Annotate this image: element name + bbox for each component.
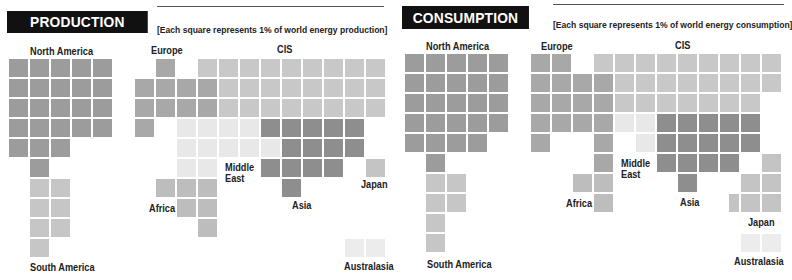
waffle-square-japan [762,194,781,212]
waffle-square-europe [573,94,592,112]
waffle-square-asia [699,134,718,152]
consumption-label-cis: CIS [675,40,690,52]
waffle-square-cis [678,74,697,92]
waffle-square-cis [657,54,676,72]
waffle-square-cis [741,94,760,112]
waffle-square-asia [657,114,676,132]
waffle-square-japan [762,174,781,192]
waffle-square-north-america [489,94,508,112]
waffle-square-asia [678,174,697,192]
waffle-square-north-america [405,94,424,112]
waffle-square-cis [678,54,697,72]
waffle-square-japan [741,174,760,192]
waffle-square-north-america [405,74,424,92]
waffle-square-north-america [447,134,466,152]
waffle-square-cis [636,94,655,112]
consumption-label-north-america: North America [426,41,489,53]
waffle-square-asia [678,154,697,172]
waffle-square-north-america [468,114,487,132]
waffle-square-europe [531,134,550,152]
waffle-square-cis [615,94,634,112]
consumption-label-europe: Europe [541,41,573,53]
waffle-square-north-america [489,114,508,132]
waffle-square-europe [573,114,592,132]
waffle-square-europe [531,114,550,132]
waffle-square-cis [762,54,781,72]
waffle-square-cis [678,94,697,112]
waffle-square-north-america [468,54,487,72]
waffle-square-europe [594,94,613,112]
waffle-square-europe [552,94,571,112]
waffle-square-north-america [447,114,466,132]
waffle-square-south-america [426,194,445,212]
waffle-square-cis [699,54,718,72]
waffle-square-japan [741,194,760,212]
consumption-label-south-america: South America [427,259,492,271]
waffle-square-europe [552,54,571,72]
waffle-square-middle-east [615,114,634,132]
consumption-label-africa: Africa [566,198,592,210]
waffle-square-north-america [447,74,466,92]
waffle-square-south-america [447,174,466,192]
waffle-square-cis [741,74,760,92]
waffle-square-africa [594,194,613,212]
waffle-square-europe [594,154,613,172]
consumption-label-middle-east-2: East [621,169,640,181]
waffle-square-north-america [468,74,487,92]
waffle-square-cis [720,94,739,112]
waffle-square-europe [552,74,571,92]
waffle-square-middle-east [636,134,655,152]
consumption-label-australasia: Australasia [734,256,784,268]
waffle-square-north-america [447,54,466,72]
waffle-square-europe [594,114,613,132]
waffle-square-cis [699,74,718,92]
waffle-square-north-america [426,54,445,72]
waffle-square-japan [762,154,781,172]
waffle-square-cis [636,54,655,72]
waffle-square-europe [573,74,592,92]
waffle-square-north-america [405,54,424,72]
waffle-square-south-america [447,194,466,212]
waffle-square-cis [720,74,739,92]
waffle-square-south-america [426,174,445,192]
waffle-square-middle-east [636,114,655,132]
waffle-square-cis [615,74,634,92]
waffle-square-cis [741,54,760,72]
waffle-square-japan [729,194,739,212]
waffle-square-europe [594,134,613,152]
waffle-square-asia [678,134,697,152]
waffle-square-cis [657,94,676,112]
waffle-square-africa [573,174,592,192]
waffle-square-asia [657,134,676,152]
waffle-square-north-america [426,94,445,112]
waffle-square-australasia [741,234,760,252]
waffle-square-north-america [447,94,466,112]
waffle-square-cis [720,54,739,72]
waffle-square-south-america [426,214,445,232]
waffle-square-cis [762,74,781,92]
waffle-square-north-america [426,74,445,92]
waffle-square-north-america [405,114,424,132]
waffle-square-north-america [489,54,508,72]
waffle-square-cis [594,54,613,72]
waffle-square-north-america [489,74,508,92]
waffle-square-cis [657,74,676,92]
waffle-square-cis [615,54,634,72]
waffle-square-asia [699,154,718,172]
waffle-square-south-america [426,234,445,252]
waffle-square-asia [741,134,760,152]
waffle-square-asia [657,154,676,172]
waffle-square-asia [741,114,760,132]
waffle-square-europe [531,54,550,72]
waffle-square-north-america [426,114,445,132]
waffle-square-australasia [762,234,781,252]
consumption-label-asia: Asia [680,197,699,209]
waffle-square-asia [720,154,739,172]
waffle-square-europe [594,74,613,92]
waffle-square-north-america [468,134,487,152]
waffle-square-europe [531,94,550,112]
consumption-label-japan: Japan [748,217,775,229]
waffle-square-asia [720,134,739,152]
